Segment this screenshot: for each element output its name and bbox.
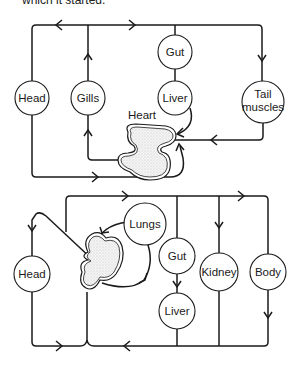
fish-node-liver: Liver [158, 81, 192, 115]
fish-circulation-diagram: Heart Head Gills Gut Liver Tail muscles [15, 20, 284, 182]
mammal-node-liver: Liver [159, 293, 195, 329]
fish-node-tail-muscles: Tail muscles [242, 81, 284, 123]
node-label: muscles [242, 101, 284, 113]
mammal-node-lungs: Lungs [124, 203, 166, 245]
mammal-node-gut: Gut [159, 238, 195, 274]
heart-label: Heart [128, 109, 157, 121]
mammal-heart [81, 233, 123, 289]
arrow-icon [139, 273, 147, 283]
fish-top-vessel [32, 25, 262, 81]
mammal-node-kidney: Kidney [200, 253, 238, 291]
fish-node-gills: Gills [71, 81, 105, 115]
node-label: Lungs [129, 218, 161, 230]
fish-heart: Heart [118, 109, 176, 180]
circulation-diagrams: Heart Head Gills Gut Liver Tail muscles [0, 0, 304, 373]
node-label: Kidney [201, 266, 236, 278]
node-label: Gut [166, 46, 185, 58]
mammal-circulation-diagram: Head Lungs Gut Liver Kidney Body [14, 191, 286, 351]
node-label: Liver [165, 305, 190, 317]
node-label: Tail [254, 88, 271, 100]
node-label: Gills [77, 92, 100, 104]
node-label: Head [18, 268, 46, 280]
node-label: Liver [163, 92, 188, 104]
fish-node-gut: Gut [158, 35, 192, 69]
mammal-node-body: Body [250, 254, 286, 290]
node-label: Gut [168, 250, 187, 262]
heart-gills-vessel [88, 115, 118, 160]
node-label: Body [255, 266, 281, 278]
head-return-vessel [32, 292, 87, 346]
mammal-node-head: Head [14, 256, 50, 292]
node-label: Head [18, 92, 46, 104]
fish-node-head: Head [15, 81, 49, 115]
